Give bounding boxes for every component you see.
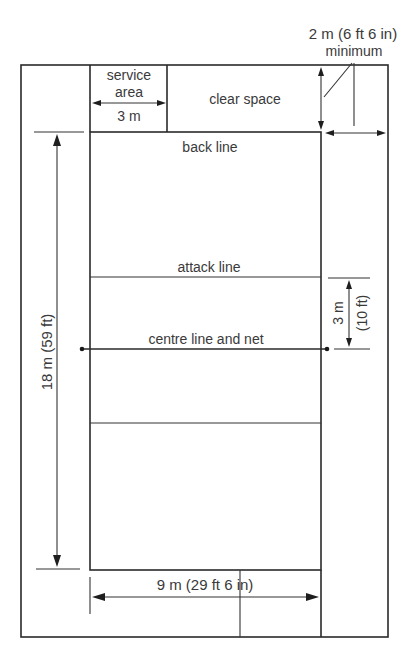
net-post-right (325, 347, 330, 352)
arrowhead-right-icon (306, 593, 319, 601)
arrowhead-left-icon (325, 130, 334, 136)
arrowhead-right-icon (377, 130, 386, 136)
leader-line-diagonal (324, 63, 352, 97)
free-zone-qualifier-label: minimum (326, 43, 383, 59)
clear-space-label: clear space (209, 91, 281, 107)
attack-depth-ft-label: (10 ft) (354, 295, 370, 332)
attack-line-label: attack line (177, 259, 240, 275)
volleyball-court-diagram: 18 m (59 ft) 9 m (29 ft 6 in) 3 m (10 ft… (0, 0, 420, 663)
arrowhead-up-icon (318, 67, 324, 76)
service-area-label-1: service (107, 67, 152, 83)
attack-depth-m-label: 3 m (330, 301, 346, 324)
arrowhead-left-icon (92, 593, 105, 601)
net-post-left (80, 347, 85, 352)
free-zone-width-label: 2 m (6 ft 6 in) (309, 25, 397, 42)
court-length-label: 18 m (59 ft) (38, 314, 55, 391)
centre-line-label: centre line and net (148, 331, 263, 347)
arrowhead-down-icon (346, 338, 352, 347)
arrowhead-left-icon (92, 100, 101, 106)
arrowhead-right-icon (157, 100, 166, 106)
arrowhead-up-icon (346, 280, 352, 289)
service-area-label-2: area (115, 84, 143, 100)
arrowhead-down-icon (53, 555, 61, 567)
court-width-label: 9 m (29 ft 6 in) (157, 576, 254, 593)
arrowhead-up-icon (53, 134, 61, 146)
back-line-label: back line (182, 139, 237, 155)
service-area-width-label: 3 m (117, 108, 140, 124)
arrowhead-down-icon (318, 121, 324, 130)
playing-court (90, 132, 321, 570)
